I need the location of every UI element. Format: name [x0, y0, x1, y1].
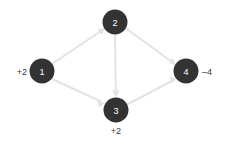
edge-1-to-3-line: [52, 79, 100, 101]
graph-node-2[interactable]: 2: [103, 10, 128, 35]
edge-1-to-2-line: [52, 31, 101, 64]
graph-svg: 1 2 3 4 +2 +2 –4: [0, 0, 225, 144]
node-group: 1 2 3 4: [30, 10, 199, 123]
node-2-label: 2: [112, 18, 117, 28]
node-4-label: 4: [183, 67, 188, 77]
node-3-label: 3: [113, 106, 118, 116]
node-1-annotation: +2: [17, 67, 27, 77]
graph-node-4[interactable]: 4: [174, 59, 199, 84]
graph-node-1[interactable]: 1: [30, 59, 55, 84]
edge-1-to-3-arrowhead: [97, 101, 105, 108]
graph-node-3[interactable]: 3: [104, 98, 129, 123]
edge-1-to-2: [52, 28, 106, 64]
node-4-annotation: –4: [202, 67, 212, 77]
edge-2-to-4: [127, 29, 176, 65]
edge-2-to-3-arrowhead: [112, 91, 119, 98]
edge-3-to-4-line: [128, 81, 172, 104]
edge-3-to-4: [128, 76, 176, 104]
graph-canvas: 1 2 3 4 +2 +2 –4: [0, 0, 225, 144]
edge-1-to-3: [52, 79, 105, 107]
edge-group: [52, 28, 176, 107]
node-3-annotation: +2: [111, 126, 121, 136]
edge-2-to-4-line: [127, 29, 172, 62]
edge-2-to-3: [112, 36, 119, 98]
node-1-label: 1: [39, 67, 44, 77]
edge-2-to-3-line: [115, 36, 116, 92]
